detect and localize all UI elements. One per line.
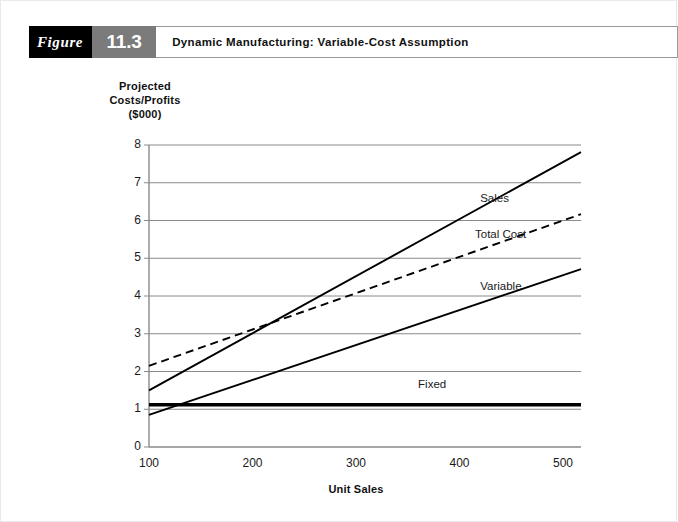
gridlines-group	[149, 145, 581, 447]
x-tick-label-400: 400	[435, 456, 485, 470]
y-tick-label-2: 2	[119, 364, 141, 378]
chart-plot-area: Projected Costs/Profits ($000) Unit Sale…	[1, 1, 678, 522]
series-label-fixed: Fixed	[418, 378, 446, 390]
x-tick-label-200: 200	[228, 456, 278, 470]
y-tick-label-0: 0	[119, 439, 141, 453]
y-tick-label-7: 7	[119, 175, 141, 189]
y-tick-label-4: 4	[119, 288, 141, 302]
axes-group	[144, 145, 149, 447]
x-tick-label-100: 100	[124, 456, 174, 470]
y-tick-label-3: 3	[119, 326, 141, 340]
series-line-sales	[149, 152, 581, 390]
y-tick-label-5: 5	[119, 250, 141, 264]
y-tick-label-1: 1	[119, 401, 141, 415]
chart-svg	[1, 1, 678, 522]
series-label-sales: Sales	[480, 192, 509, 204]
series-label-total-cost: Total Cost	[475, 228, 526, 240]
series-label-variable: Variable	[480, 280, 521, 292]
y-tick-label-6: 6	[119, 213, 141, 227]
y-tick-label-8: 8	[119, 137, 141, 151]
x-tick-label-500: 500	[538, 456, 588, 470]
x-tick-label-300: 300	[331, 456, 381, 470]
